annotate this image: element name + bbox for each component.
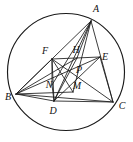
geometry-canvas: ABCDEFHMNP <box>0 0 133 142</box>
point-label-B: B <box>5 91 11 102</box>
point-label-N: N <box>45 79 54 90</box>
point-label-F: F <box>41 45 49 56</box>
segment-BD <box>16 94 54 101</box>
point-label-D: D <box>48 105 57 116</box>
segment-FC <box>52 59 113 102</box>
point-label-C: C <box>119 100 126 111</box>
segment-FM <box>52 59 73 92</box>
point-label-P: P <box>75 64 82 75</box>
labels-layer: ABCDEFHMNP <box>5 3 126 116</box>
segment-BE <box>16 57 100 94</box>
point-label-A: A <box>92 3 100 14</box>
geometry-figure: ABCDEFHMNP <box>0 0 133 142</box>
point-label-M: M <box>72 80 82 91</box>
segment-EC <box>100 57 113 102</box>
segments-layer <box>16 21 113 102</box>
point-label-H: H <box>71 44 80 55</box>
segment-BM <box>16 92 73 94</box>
point-label-E: E <box>101 51 108 62</box>
